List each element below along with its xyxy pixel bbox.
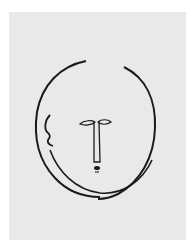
eyebrow-right xyxy=(98,120,111,125)
eyebrow-left xyxy=(80,121,95,125)
mouth xyxy=(94,166,100,170)
face-drawing xyxy=(0,0,193,250)
nose xyxy=(94,122,100,162)
head-outline-right xyxy=(98,67,155,199)
ear xyxy=(45,115,53,146)
